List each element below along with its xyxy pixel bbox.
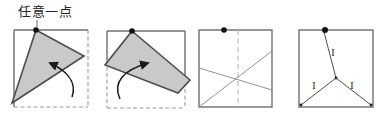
textbook-fold-diagram: 任意一点 — [0, 0, 382, 123]
figure-step-1: 任意一点 — [12, 4, 88, 107]
center-intersection-dot — [335, 77, 338, 80]
segment-label: I — [331, 47, 334, 58]
segment-label: I — [312, 80, 315, 91]
square-outline — [199, 30, 272, 107]
marked-point-dot — [33, 27, 39, 33]
marked-point-dot — [322, 27, 328, 33]
figure-step-3 — [199, 27, 272, 107]
fold-diagram-canvas: 任意一点 — [0, 0, 382, 123]
bottom-right-corner-dot — [370, 104, 373, 107]
segment-center-to-bottom-left — [301, 78, 336, 105]
crease-line-2 — [199, 68, 272, 90]
square-outline — [299, 30, 373, 107]
annotation-any-point-label: 任意一点 — [18, 4, 72, 19]
bottom-left-corner-dot — [300, 104, 303, 107]
segment-label: I — [350, 80, 353, 91]
marked-point-dot — [221, 27, 227, 33]
figure-step-2 — [105, 28, 190, 108]
figure-step-4: I I I — [299, 27, 373, 107]
marked-point-dot — [129, 28, 135, 34]
